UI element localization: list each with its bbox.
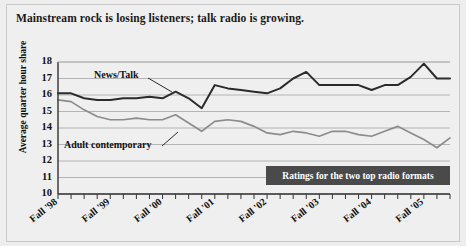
x-axis-tick-label: Fall '05	[393, 196, 425, 224]
plot-area: 101112131415161718 Fall '98Fall '99Fall …	[0, 0, 466, 246]
x-axis-tick-label: Fall '04	[341, 196, 373, 224]
y-axis-tick-labels: 101112131415161718	[42, 55, 53, 198]
chart-figure: Mainstream rock is losing listeners; tal…	[0, 0, 466, 246]
caption-text: Ratings for the two top radio formats	[282, 171, 433, 181]
x-axis-tick-label: Fall '01	[184, 196, 216, 224]
y-axis-tick-label: 11	[42, 171, 52, 182]
x-axis-tick-label: Fall '03	[289, 196, 321, 224]
y-axis-tick-label: 17	[42, 72, 53, 83]
y-axis-tick-label: 13	[42, 138, 53, 149]
series-label-news-talk: News/Talk	[94, 69, 139, 80]
y-axis-tick-label: 12	[42, 154, 53, 165]
x-axis-ticks	[58, 194, 450, 199]
y-axis-tick-label: 14	[42, 121, 53, 132]
x-axis-tick-label: Fall '98	[27, 196, 59, 224]
y-axis-tick-label: 18	[42, 55, 53, 66]
x-axis-tick-label: Fall '99	[80, 196, 112, 224]
x-axis-tick-labels: Fall '98Fall '99Fall '00Fall '01Fall '02…	[27, 196, 425, 224]
y-axis-tick-label: 15	[42, 105, 53, 116]
caption-banner: Ratings for the two top radio formats	[266, 166, 450, 185]
series-label-adult-contemporary: Adult contemporary	[64, 139, 152, 150]
y-axis-tick-label: 16	[42, 88, 53, 99]
x-axis-tick-label: Fall '02	[236, 196, 268, 224]
x-axis-tick-label: Fall '00	[132, 196, 164, 224]
